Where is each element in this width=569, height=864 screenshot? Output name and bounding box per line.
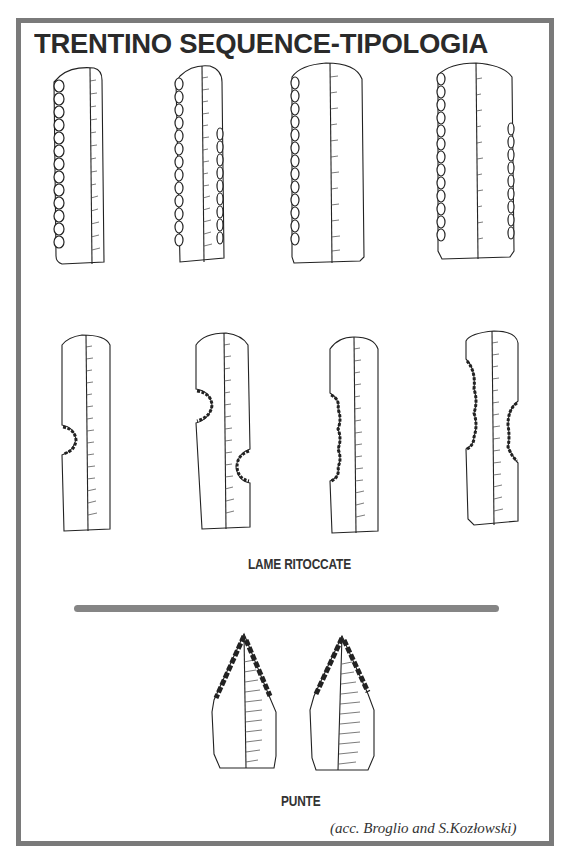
section-label-lame-ritoccate: LAME RITOCCATE: [248, 556, 351, 572]
blade-drawing-6: [194, 331, 254, 533]
source-credit: (acc. Broglio and S.Kozłowski): [330, 820, 517, 837]
blade-drawing-1: [52, 66, 112, 268]
section-label-punte: PUNTE: [281, 793, 320, 809]
blade-drawing-8: [464, 329, 524, 529]
blade-drawing-5: [60, 333, 116, 535]
blade-drawing-7: [328, 335, 384, 535]
point-drawing-1: [210, 632, 278, 772]
section-divider: [74, 605, 499, 612]
blade-drawing-4: [436, 61, 516, 265]
blade-drawing-2: [174, 64, 230, 266]
point-drawing-2: [308, 634, 376, 774]
figure-title: TRENTINO SEQUENCE-TIPOLOGIA: [34, 28, 488, 60]
blade-drawing-3: [290, 61, 366, 267]
